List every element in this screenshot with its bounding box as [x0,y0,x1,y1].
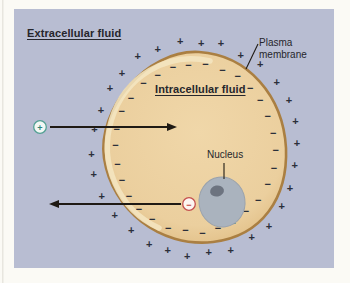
minus-charge: − [126,190,132,202]
minus-charge: − [149,213,155,225]
plus-charge: + [238,49,244,61]
plus-charge: + [184,250,190,262]
plus-charge: + [278,200,284,212]
minus-charge: − [119,174,125,186]
positive-ion-symbol: + [37,123,42,133]
nucleus-label: Nucleus [207,149,243,160]
minus-charge: − [128,92,134,104]
plus-charge: + [228,244,234,256]
intracellular-fluid-label: Intracellular fluid [155,83,246,95]
minus-charge: − [255,194,261,206]
minus-charge: − [185,59,191,71]
negative-ion-icon: − [183,198,196,211]
negative-ion-symbol: − [186,200,191,210]
minus-charge: − [155,69,161,81]
plus-charge: + [88,148,94,160]
minus-charge: − [170,61,176,73]
plus-charge: + [292,159,298,171]
minus-charge: − [219,64,225,76]
minus-charge: − [272,144,278,156]
minus-charge: − [112,139,118,151]
minus-charge: − [265,110,271,122]
minus-charge: − [247,82,253,94]
minus-charge: − [182,224,188,236]
plus-charge: + [112,209,118,221]
plus-charge: + [128,224,134,236]
plus-charge: + [119,67,125,79]
minus-charge: − [265,178,271,190]
plus-charge: + [292,115,298,127]
plus-charge: + [294,137,300,149]
plus-charge: + [107,82,113,94]
plus-charge: + [205,246,211,258]
page-edge-line [2,0,4,283]
plus-charge: + [266,220,272,232]
minus-charge: − [165,222,171,234]
plus-charge: + [286,94,292,106]
plus-charge: + [287,182,293,194]
extracellular-fluid-label: Extracellular fluid [27,27,121,39]
minus-charge: − [140,77,146,89]
plus-charge: + [218,37,224,49]
minus-charge: − [118,105,124,117]
plus-charge: + [98,190,104,202]
positive-ion-icon: + [34,121,47,134]
figure-stage: +−+−+−+−+−+−+−+−+−+−+−+−+−+−+−+−+−+−+−+−… [0,0,350,283]
plus-charge: + [91,123,97,135]
minus-charge: − [270,127,276,139]
plus-charge: + [274,76,280,88]
plus-charge: + [154,43,160,55]
minus-charge: − [271,162,277,174]
plus-charge: + [177,35,183,47]
plus-charge: + [146,238,152,250]
plus-charge: + [198,37,204,49]
minus-charge: − [202,58,208,70]
minus-charge: − [114,158,120,170]
minus-charge: − [234,70,240,82]
plasma-membrane-label: Plasma membrane [259,37,317,60]
plus-charge: + [90,168,96,180]
plus-charge: + [98,104,104,116]
plus-charge: + [164,244,170,256]
plus-charge: + [248,231,254,243]
minus-charge: − [199,227,205,239]
minus-charge: − [257,94,263,106]
plus-charge: + [135,50,141,62]
minus-charge: − [113,123,119,135]
minus-charge: − [136,203,142,215]
